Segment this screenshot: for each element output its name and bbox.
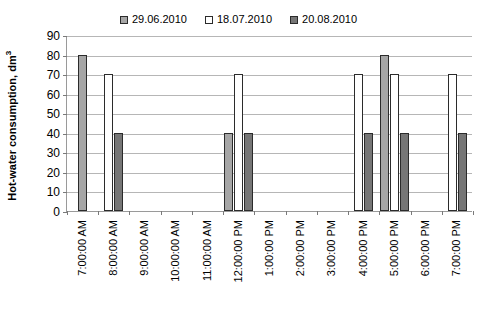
legend-swatch-series-1: [120, 16, 128, 24]
legend-entry-series-3: 20.08.2010: [290, 14, 357, 25]
x-axis-label-slot: 3:00:00 PM: [316, 216, 347, 309]
x-axis-tick-label: 5:00:00 PM: [388, 220, 400, 276]
y-axis-title-text: Hot-water consumption, dm: [6, 56, 18, 201]
legend-label-series-1: 29.06.2010: [132, 14, 187, 25]
x-axis-tick-label: 9:00:00 AM: [138, 220, 150, 276]
bar-29.06.2010-5:00:00 PM: [380, 55, 389, 211]
x-axis-tickmark: [473, 211, 474, 215]
x-axis-tickmark: [67, 211, 68, 215]
x-axis-tickmark: [129, 211, 130, 215]
bar-18.07.2010-7:00:00 PM: [448, 74, 457, 211]
x-axis-tick-label: 11:00:00 AM: [201, 220, 213, 281]
x-axis-tick-labels: 7:00:00 AM8:00:00 AM9:00:00 AM10:00:00 A…: [66, 216, 472, 309]
y-axis-tick-label: 20: [47, 166, 60, 180]
x-axis-tick-label: 7:00:00 AM: [76, 220, 88, 276]
x-axis-tick-label: 4:00:00 PM: [357, 220, 369, 276]
x-axis-tick-label: 3:00:00 PM: [325, 220, 337, 276]
gridline: [67, 153, 472, 154]
x-axis-label-slot: 9:00:00 AM: [128, 216, 159, 309]
y-axis-tickmark: [63, 153, 67, 154]
x-axis-label-slot: 2:00:00 PM: [285, 216, 316, 309]
x-axis-tick-label: 6:00:00 PM: [419, 220, 431, 276]
bar-29.06.2010-12:00:00 PM: [224, 133, 233, 211]
x-axis-label-slot: 8:00:00 AM: [97, 216, 128, 309]
hot-water-consumption-bar-chart: 29.06.2010 18.07.2010 20.08.2010 Hot-wat…: [0, 0, 477, 309]
x-axis-label-slot: 10:00:00 AM: [160, 216, 191, 309]
bar-20.08.2010-5:00:00 PM: [400, 133, 409, 211]
y-axis-tickmark: [63, 114, 67, 115]
y-axis-tick-label: 40: [47, 127, 60, 141]
x-axis-tickmark: [223, 211, 224, 215]
y-axis-tickmark: [63, 173, 67, 174]
x-axis-tickmark: [411, 211, 412, 215]
x-axis-label-slot: 11:00:00 AM: [191, 216, 222, 309]
y-axis-tick-label: 30: [47, 146, 60, 160]
x-axis-tick-label: 1:00:00 PM: [263, 220, 275, 276]
gridline: [67, 95, 472, 96]
bar-18.07.2010-12:00:00 PM: [234, 74, 243, 211]
x-axis-tickmark: [254, 211, 255, 215]
x-axis-tickmark: [317, 211, 318, 215]
x-axis-tickmark: [379, 211, 380, 215]
x-axis-tickmark: [192, 211, 193, 215]
chart-legend: 29.06.2010 18.07.2010 20.08.2010: [0, 14, 477, 25]
y-axis-tick-label: 70: [47, 68, 60, 82]
legend-entry-series-2: 18.07.2010: [205, 14, 272, 25]
x-axis-tick-label: 10:00:00 AM: [169, 220, 181, 282]
x-axis-tick-label: 2:00:00 PM: [294, 220, 306, 276]
legend-label-series-2: 18.07.2010: [217, 14, 272, 25]
y-axis-tickmark: [63, 56, 67, 57]
bar-20.08.2010-4:00:00 PM: [364, 133, 373, 211]
bar-20.08.2010-12:00:00 PM: [244, 133, 253, 211]
gridline: [67, 56, 472, 57]
legend-swatch-series-2: [205, 16, 213, 24]
y-axis-tick-label: 50: [47, 107, 60, 121]
x-axis-tickmark: [442, 211, 443, 215]
x-axis-label-slot: 6:00:00 PM: [410, 216, 441, 309]
y-axis-tick-labels: 9080706050403020100: [24, 36, 64, 212]
y-axis-tickmark: [63, 134, 67, 135]
gridline: [67, 134, 472, 135]
gridline: [67, 36, 472, 37]
x-axis-tickmark: [98, 211, 99, 215]
plot-area: [66, 36, 472, 212]
x-axis-label-slot: 4:00:00 PM: [347, 216, 378, 309]
gridline: [67, 114, 472, 115]
x-axis-label-slot: 1:00:00 PM: [253, 216, 284, 309]
bar-18.07.2010-8:00:00 AM: [104, 74, 113, 211]
x-axis-label-slot: 12:00:00 PM: [222, 216, 253, 309]
legend-swatch-series-3: [290, 16, 298, 24]
x-axis-label-slot: 7:00:00 PM: [441, 216, 472, 309]
bar-20.08.2010-8:00:00 AM: [114, 133, 123, 211]
x-axis-tick-label: 8:00:00 AM: [107, 220, 119, 276]
x-axis-tickmark: [161, 211, 162, 215]
y-axis-tickmark: [63, 36, 67, 37]
y-axis-tickmark: [63, 95, 67, 96]
bar-20.08.2010-7:00:00 PM: [458, 133, 467, 211]
x-axis-tickmark: [348, 211, 349, 215]
gridline: [67, 192, 472, 193]
y-axis-title-container: Hot-water consumption, dm3: [0, 36, 22, 216]
x-axis-tickmark: [286, 211, 287, 215]
x-axis-tick-label: 12:00:00 PM: [232, 220, 244, 282]
y-axis-tick-label: 80: [47, 49, 60, 63]
y-axis-title: Hot-water consumption, dm3: [4, 51, 18, 201]
legend-entry-series-1: 29.06.2010: [120, 14, 187, 25]
y-axis-tick-label: 0: [53, 205, 60, 219]
y-axis-tickmark: [63, 75, 67, 76]
bar-29.06.2010-7:00:00 AM: [78, 55, 87, 211]
legend-label-series-3: 20.08.2010: [302, 14, 357, 25]
y-axis-tick-label: 90: [47, 29, 60, 43]
gridline: [67, 173, 472, 174]
x-axis-label-slot: 7:00:00 AM: [66, 216, 97, 309]
y-axis-title-superscript: 3: [4, 51, 13, 55]
gridline: [67, 75, 472, 76]
y-axis-tick-label: 10: [47, 185, 60, 199]
y-axis-tick-label: 60: [47, 88, 60, 102]
x-axis-tick-label: 7:00:00 PM: [450, 220, 462, 276]
y-axis-tickmark: [63, 192, 67, 193]
bar-18.07.2010-5:00:00 PM: [390, 74, 399, 211]
bar-18.07.2010-4:00:00 PM: [354, 74, 363, 211]
x-axis-label-slot: 5:00:00 PM: [378, 216, 409, 309]
